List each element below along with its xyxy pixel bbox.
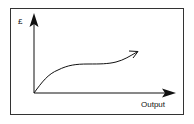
cost-curve <box>34 51 138 93</box>
x-axis <box>34 89 176 98</box>
y-axis <box>30 13 39 93</box>
y-axis-label: £ <box>18 18 22 26</box>
x-axis-label: Output <box>141 101 165 109</box>
